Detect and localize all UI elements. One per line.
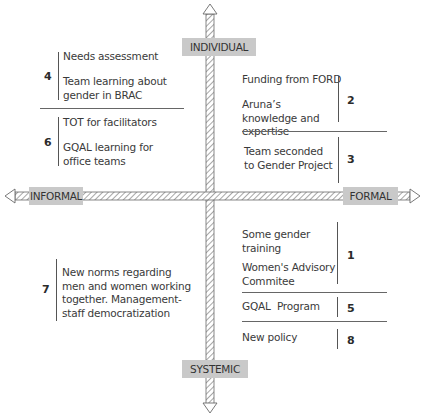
group-divider bbox=[58, 52, 59, 100]
group-number: 7 bbox=[42, 283, 50, 296]
group-divider bbox=[56, 259, 57, 321]
axis-label-informal: INFORMAL bbox=[29, 187, 83, 205]
item-text: Women's Advisory Commitee bbox=[242, 261, 337, 288]
group-divider bbox=[338, 137, 339, 183]
section-divider bbox=[40, 108, 184, 109]
item-text: Needs assessment bbox=[63, 50, 203, 64]
group-divider bbox=[58, 117, 59, 166]
arrow-down-icon bbox=[203, 403, 217, 413]
item-text: Team seconded to Gender Project bbox=[244, 145, 336, 172]
group-number: 4 bbox=[44, 70, 52, 83]
group-number: 3 bbox=[347, 153, 355, 166]
item-text: Funding from FORD bbox=[242, 73, 367, 87]
item-text: Some gender training bbox=[242, 228, 332, 255]
vertical-axis bbox=[206, 14, 214, 404]
item-text: Team learning about gender in BRAC bbox=[63, 75, 203, 102]
group-number: 1 bbox=[347, 249, 355, 262]
axis-label-systemic: SYSTEMIC bbox=[182, 360, 248, 378]
item-text: New norms regarding men and women workin… bbox=[62, 266, 197, 320]
group-number: 2 bbox=[347, 94, 355, 107]
group-number: 5 bbox=[347, 302, 355, 315]
arrow-up-icon bbox=[203, 4, 217, 14]
group-divider bbox=[338, 76, 339, 122]
item-text: New policy bbox=[242, 331, 332, 345]
group-divider bbox=[337, 297, 338, 317]
arrow-right-icon bbox=[410, 189, 420, 203]
item-text: TOT for facilitators bbox=[63, 116, 203, 130]
arrow-left-icon bbox=[5, 189, 15, 203]
item-text: GQAL Program bbox=[242, 300, 332, 314]
group-divider bbox=[337, 222, 338, 284]
group-number: 8 bbox=[347, 334, 355, 347]
section-divider bbox=[242, 292, 387, 293]
item-text: GQAL learning for office teams bbox=[63, 141, 163, 168]
group-divider bbox=[337, 329, 338, 349]
section-divider bbox=[242, 131, 387, 132]
axis-label-formal: FORMAL bbox=[343, 187, 398, 205]
group-number: 6 bbox=[44, 136, 52, 149]
section-divider bbox=[242, 321, 387, 322]
item-text: Aruna’s knowledge and expertise bbox=[242, 98, 337, 139]
